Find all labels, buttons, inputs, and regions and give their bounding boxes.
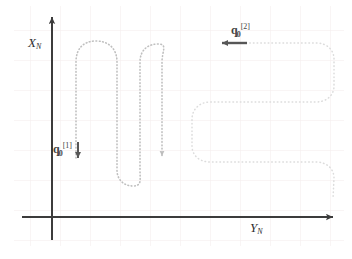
- q0-1-subscript: 0: [59, 149, 63, 158]
- background-grid: [14, 6, 344, 246]
- x-axis-label: XN: [28, 36, 41, 49]
- q0-2-subscript: 0: [237, 30, 241, 39]
- x-axis-label-subscript: N: [36, 42, 41, 51]
- q0-2-label: q0[2]: [231, 24, 251, 36]
- q0-2-superscript: [2]: [241, 22, 250, 31]
- y-axis-label: YN: [250, 221, 263, 234]
- q0-1-superscript: [1]: [63, 141, 72, 150]
- q0-1-label: q0[1]: [53, 143, 73, 155]
- figure-canvas: XN YN q0[1] q0[2]: [0, 0, 352, 259]
- x-axis-label-symbol: X: [28, 35, 36, 50]
- figure-svg: [0, 0, 352, 259]
- y-axis-label-subscript: N: [257, 227, 262, 236]
